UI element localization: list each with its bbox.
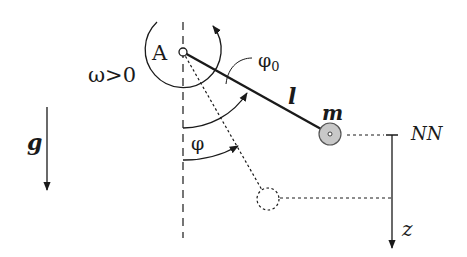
phi0-label: φ0 — [258, 49, 280, 74]
omega-label: ω>0 — [88, 63, 136, 87]
gravity-label: g — [27, 129, 42, 155]
pendulum-diagram: ω>0 A φ0 φ l m g NN z — [0, 0, 467, 257]
length-label: l — [288, 83, 296, 109]
phi-label: φ — [191, 132, 204, 154]
pivot-label: A — [151, 41, 168, 65]
pendulum-rod — [183, 52, 330, 134]
z-axis-label: z — [401, 217, 413, 241]
mass-label: m — [322, 101, 343, 125]
phi0-angle-arc — [183, 93, 247, 128]
pivot-point — [179, 48, 187, 56]
phi0-leader-line — [226, 58, 252, 84]
reference-level-label: NN — [410, 123, 444, 144]
displaced-mass-outline — [257, 188, 279, 210]
mass-center — [328, 132, 332, 136]
